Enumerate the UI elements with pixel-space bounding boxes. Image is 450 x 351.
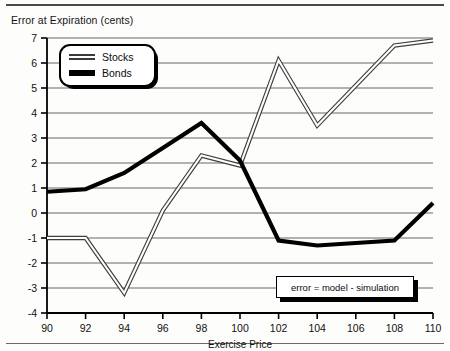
x-axis-tick-label: 98 [196,322,208,334]
y-axis-tick-label: 1 [31,182,37,194]
legend-entry-bonds: Bonds [69,67,132,79]
y-axis-tick-label: 6 [31,57,37,69]
x-axis-tick-label: 108 [386,322,404,334]
y-axis-tick-label: 4 [31,107,37,119]
y-axis-tick-label: 3 [31,132,37,144]
y-axis-tick-label: 7 [31,32,37,44]
x-axis-tick-label: 90 [41,322,53,334]
y-axis-tick-label: 5 [31,82,37,94]
y-axis-tick-label: -1 [28,232,37,244]
annotation-body: error = model - simulation [276,276,414,298]
y-axis-tick-label: -4 [28,307,37,319]
x-axis-tick-label: 106 [347,322,365,334]
x-axis-tick-label: 110 [425,322,442,334]
x-axis-label: Exercise Price [208,339,272,350]
legend-label-stocks: Stocks [102,51,134,63]
y-axis-tick-label: 0 [31,207,37,219]
legend-body: Stocks Bonds [59,44,156,87]
y-axis-tick-label: -3 [28,282,37,294]
chart-legend: Stocks Bonds [59,44,158,89]
series-line-bonds [47,123,433,246]
legend-label-bonds: Bonds [102,67,132,79]
y-axis-tick-label: 2 [31,157,37,169]
x-axis-tick-label: 104 [308,322,326,334]
y-axis-tick-label: -2 [28,257,37,269]
legend-swatch-stocks-icon [69,54,95,60]
chart-annotation-box: error = model - simulation [276,276,418,302]
x-axis-tick-label: 92 [80,322,92,334]
x-axis-tick-label: 100 [231,322,249,334]
annotation-text: error = model - simulation [291,282,399,293]
x-axis-tick-label: 94 [118,322,130,334]
legend-swatch-bonds-icon [69,70,95,76]
y-axis-group: -4-3-2-101234567 [28,32,47,319]
x-axis-group: 9092949698100102104106108110 [41,313,441,334]
x-axis-tick-label: 96 [157,322,169,334]
legend-entry-stocks: Stocks [69,51,134,63]
x-axis-tick-label: 102 [270,322,288,334]
figure-page: Error at Expiration (cents) -4-3-2-10123… [0,0,450,351]
